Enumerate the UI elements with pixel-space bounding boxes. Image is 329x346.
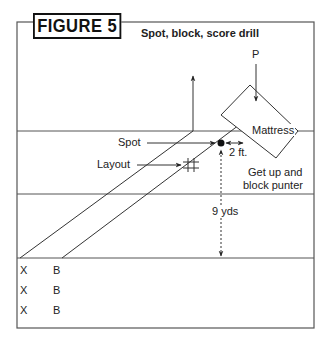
- instruction-line2: block punter: [243, 179, 303, 191]
- player-b-1: B: [53, 264, 60, 276]
- spot-dot-icon: [218, 140, 225, 147]
- punter-label: P: [252, 48, 259, 60]
- player-x-1: X: [20, 264, 27, 276]
- spot-label: Spot: [118, 136, 141, 148]
- route-b-path: [62, 119, 247, 258]
- player-b-2: B: [53, 284, 60, 296]
- player-x-3: X: [20, 304, 27, 316]
- figure-title: FIGURE 5: [33, 13, 121, 39]
- nine-yds-label: 9 yds: [212, 205, 238, 217]
- figure-subtitle: Spot, block, score drill: [141, 27, 259, 39]
- layout-label: Layout: [97, 158, 130, 170]
- player-b-3: B: [53, 304, 60, 316]
- instruction-line1: Get up and: [248, 166, 302, 178]
- player-x-2: X: [20, 284, 27, 296]
- two-ft-label: 2 ft.: [229, 146, 247, 158]
- mattress-label: Mattress: [251, 124, 295, 136]
